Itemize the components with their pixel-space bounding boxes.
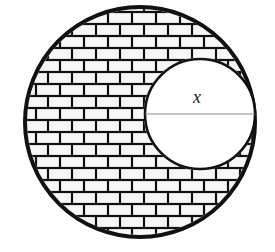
diameter-label-x: x xyxy=(192,87,201,107)
geometry-diagram: x xyxy=(0,0,275,252)
figure-canvas: x xyxy=(0,0,275,252)
